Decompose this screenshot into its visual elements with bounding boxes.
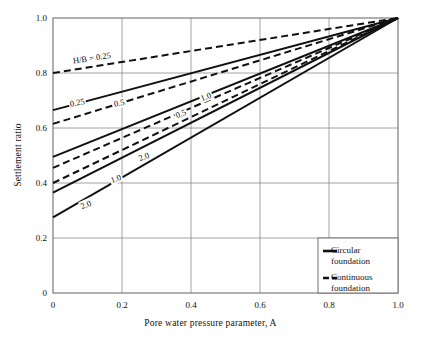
curve-circular-h-b-0-25 (53, 18, 398, 110)
curve-circular-h-b-2-0 (53, 18, 398, 217)
y-tick-label: 0.2 (18, 233, 47, 243)
y-tick-label: 0 (18, 288, 47, 298)
legend-continuous-line1: Continuous (331, 272, 373, 282)
curve-circular-h-b-1-0 (53, 18, 398, 193)
x-tick-label: 0.6 (254, 300, 265, 310)
curve-layer (53, 18, 398, 217)
settlement-ratio-chart: 00.20.40.60.81.0 00.20.40.60.81.0 H/B = … (0, 0, 421, 341)
legend-circular-line2: foundation (331, 256, 370, 266)
curve-continuous-h-b-1-0 (53, 18, 398, 168)
x-tick-label: 0 (51, 300, 56, 310)
legend-label-continuous: Continuous foundation (331, 272, 373, 293)
legend-label-circular: Circular foundation (331, 245, 370, 266)
x-tick-label: 0.4 (185, 300, 196, 310)
curve-circular-h-b-0-5 (53, 18, 398, 157)
legend-continuous-line2: foundation (331, 283, 370, 293)
curve-continuous-h-b-2-0 (53, 18, 398, 183)
x-tick-label: 1.0 (392, 300, 403, 310)
curve-continuous-h-b-0-5 (53, 18, 398, 124)
y-tick-label: 1.0 (18, 13, 47, 23)
x-tick-label: 0.2 (116, 300, 127, 310)
y-axis-title: Settlement ratio (13, 95, 23, 215)
y-tick-label: 0.8 (18, 68, 47, 78)
legend-circular-line1: Circular (331, 245, 361, 255)
x-axis-title: Pore water pressure parameter, A (0, 318, 421, 328)
x-tick-label: 0.8 (323, 300, 334, 310)
